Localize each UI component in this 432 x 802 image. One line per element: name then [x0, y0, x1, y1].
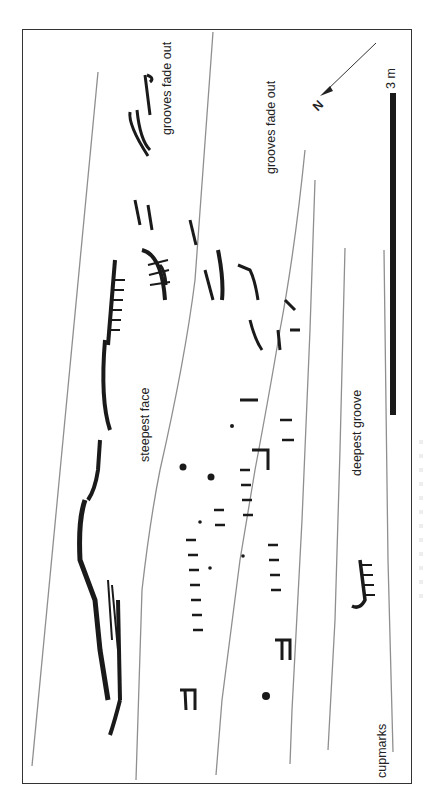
boat-figure — [352, 560, 375, 607]
groove-lines — [32, 32, 393, 780]
scale-bar-label: 3 m — [384, 68, 398, 89]
label-deepest-groove: deepest groove — [350, 390, 364, 476]
long-ship — [80, 260, 125, 735]
label-grooves-fade-out-2: grooves fade out — [264, 81, 278, 174]
label-grooves-fade-out-1: grooves fade out — [160, 42, 174, 135]
north-arrow — [320, 43, 376, 96]
petroglyph-figures — [80, 75, 375, 735]
boat-figure — [135, 200, 280, 350]
rock-art-tracing — [0, 0, 432, 802]
figure-caption-faint — [419, 440, 423, 600]
label-steepest-face: steepest face — [138, 388, 152, 462]
animal-figures — [180, 300, 300, 710]
human-figures-row — [186, 420, 294, 630]
label-cupmarks: cupmarks — [375, 724, 389, 778]
scale-bar — [390, 93, 396, 415]
